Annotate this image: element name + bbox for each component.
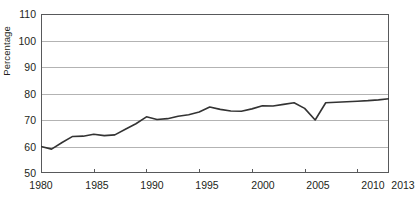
x-tick-label: 2013 bbox=[386, 179, 420, 191]
x-tick-label: 1980 bbox=[21, 179, 61, 191]
x-tick-label: 1995 bbox=[187, 179, 227, 191]
y-tick-label: 80 bbox=[4, 89, 36, 99]
x-tick-label: 2000 bbox=[243, 179, 283, 191]
y-tick-label: 70 bbox=[4, 115, 36, 125]
y-tick-label: 90 bbox=[4, 62, 36, 72]
plot-border bbox=[42, 15, 389, 173]
y-tick-label: 110 bbox=[4, 9, 36, 19]
x-tick-label: 1985 bbox=[77, 179, 117, 191]
y-tick-label: 50 bbox=[4, 168, 36, 178]
x-tick-label: 1990 bbox=[132, 179, 172, 191]
y-tick-label: 60 bbox=[4, 142, 36, 152]
gridlines bbox=[41, 42, 389, 148]
line-chart: Percentage 110 100 90 80 70 60 50 1980 1… bbox=[0, 0, 420, 202]
data-series-line bbox=[41, 99, 389, 149]
x-tick-label: 2005 bbox=[298, 179, 338, 191]
y-axis-tick-labels: 110 100 90 80 70 60 50 bbox=[0, 0, 36, 202]
y-tick-label: 100 bbox=[4, 36, 36, 46]
plot-svg bbox=[41, 14, 389, 173]
plot-area bbox=[41, 14, 389, 173]
